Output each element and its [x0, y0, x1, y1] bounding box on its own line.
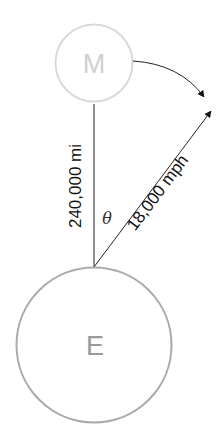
- orbit-arrow: [133, 61, 204, 97]
- speed-label: 18,000 mph: [123, 151, 192, 234]
- moon: M: [56, 25, 133, 102]
- distance-label: 240,000 mi: [66, 144, 85, 228]
- angle-label: θ: [102, 209, 112, 228]
- earth: E: [17, 268, 172, 423]
- moon-label: M: [83, 49, 106, 79]
- earth-moon-diagram: M 240,000 mi θ 18,000 mph E: [0, 0, 223, 438]
- earth-label: E: [86, 331, 104, 361]
